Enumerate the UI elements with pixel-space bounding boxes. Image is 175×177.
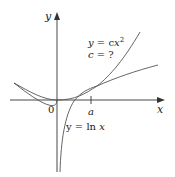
question-label: c = ? <box>88 49 114 60</box>
y-axis-arrow-icon <box>54 12 60 20</box>
parabola-label: y = cx2 <box>87 36 124 48</box>
log-curve <box>60 65 158 172</box>
origin-label: 0 <box>48 104 54 115</box>
x-axis-label: x <box>157 103 164 116</box>
x-axis <box>10 97 165 103</box>
log-label: y = ln x <box>65 121 105 132</box>
tangent-curves-diagram: y x 0 a y = cx2 c = ? y = ln x <box>0 0 175 177</box>
tick-label-a: a <box>88 106 94 117</box>
y-axis-label: y <box>44 10 52 23</box>
y-axis <box>54 12 60 172</box>
